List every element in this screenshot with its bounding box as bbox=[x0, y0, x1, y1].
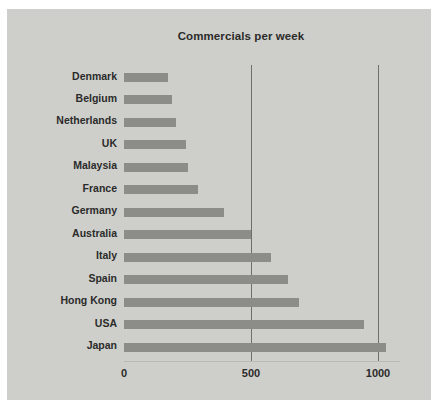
gridline-500 bbox=[251, 65, 252, 361]
bar-netherlands[interactable] bbox=[124, 118, 176, 127]
y-tick-label-malaysia: Malaysia bbox=[7, 159, 117, 171]
bar-hong-kong[interactable] bbox=[124, 298, 299, 307]
y-tick-label-spain: Spain bbox=[7, 272, 117, 284]
y-tick-label-netherlands: Netherlands bbox=[7, 114, 117, 126]
bar-australia[interactable] bbox=[124, 230, 251, 239]
x-tick-label-500: 500 bbox=[242, 367, 260, 379]
bar-belgium[interactable] bbox=[124, 95, 172, 104]
bar-france[interactable] bbox=[124, 185, 198, 194]
x-tick-label-1000: 1000 bbox=[366, 367, 390, 379]
x-tick-label-0: 0 bbox=[121, 367, 127, 379]
gridline-1000 bbox=[378, 65, 379, 361]
y-axis-tick-labels: Denmark Belgium Netherlands UK Malaysia … bbox=[7, 65, 117, 361]
chart-figure: Commercials per week Denmark Belgium Net… bbox=[7, 9, 431, 400]
y-tick-label-usa: USA bbox=[7, 317, 117, 329]
bar-germany[interactable] bbox=[124, 208, 224, 217]
bar-uk[interactable] bbox=[124, 140, 186, 149]
chart-title: Commercials per week bbox=[7, 30, 431, 42]
bar-italy[interactable] bbox=[124, 253, 271, 262]
y-tick-label-germany: Germany bbox=[7, 204, 117, 216]
bar-denmark[interactable] bbox=[124, 73, 168, 82]
y-tick-label-belgium: Belgium bbox=[7, 92, 117, 104]
y-tick-label-australia: Australia bbox=[7, 227, 117, 239]
y-tick-label-japan: Japan bbox=[7, 339, 117, 351]
y-tick-label-uk: UK bbox=[7, 137, 117, 149]
y-tick-label-denmark: Denmark bbox=[7, 70, 117, 82]
bar-spain[interactable] bbox=[124, 275, 288, 284]
plot-area: 0 500 1000 bbox=[124, 65, 400, 361]
bar-usa[interactable] bbox=[124, 320, 364, 329]
y-tick-label-hong-kong: Hong Kong bbox=[7, 294, 117, 306]
y-tick-label-france: France bbox=[7, 182, 117, 194]
x-axis-line bbox=[124, 361, 400, 362]
bar-malaysia[interactable] bbox=[124, 163, 188, 172]
bar-japan[interactable] bbox=[124, 343, 386, 352]
y-tick-label-italy: Italy bbox=[7, 249, 117, 261]
